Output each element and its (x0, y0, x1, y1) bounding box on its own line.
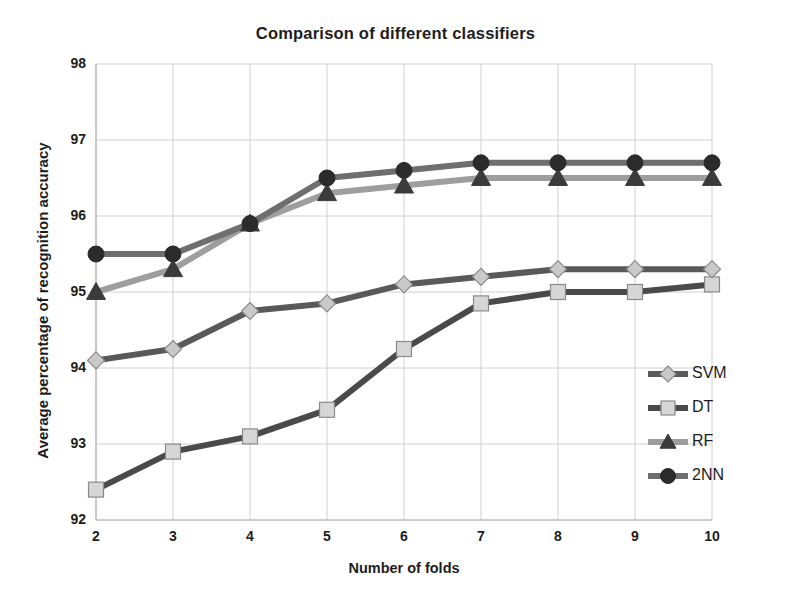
legend-marker-square-icon (646, 396, 690, 420)
legend-marker-circle-icon (646, 464, 690, 488)
x-tick-6: 6 (384, 528, 424, 544)
x-tick-8: 8 (538, 528, 578, 544)
y-tick-96: 96 (40, 207, 86, 223)
legend-item-2nn[interactable]: 2NN (646, 464, 736, 494)
chart-container: Comparison of different classifiers Aver… (0, 0, 791, 605)
x-tick-7: 7 (461, 528, 501, 544)
legend-label-svm: SVM (692, 364, 727, 382)
legend-marker-triangle-icon (646, 430, 690, 454)
x-tick-2: 2 (76, 528, 116, 544)
y-tick-92: 92 (40, 511, 86, 527)
legend-item-svm[interactable]: SVM (646, 362, 736, 392)
plot-area (0, 0, 791, 605)
x-tick-5: 5 (307, 528, 347, 544)
y-tick-93: 93 (40, 435, 86, 451)
y-tick-95: 95 (40, 283, 86, 299)
legend-label-2nn: 2NN (692, 466, 724, 484)
x-tick-3: 3 (153, 528, 193, 544)
legend-label-rf: RF (692, 432, 713, 450)
legend-marker-diamond-icon (646, 362, 690, 386)
y-tick-94: 94 (40, 359, 86, 375)
x-tick-10: 10 (692, 528, 732, 544)
y-tick-98: 98 (40, 55, 86, 71)
x-tick-9: 9 (615, 528, 655, 544)
y-tick-97: 97 (40, 131, 86, 147)
legend-label-dt: DT (692, 398, 713, 416)
legend: SVM DT RF 2NN (646, 362, 736, 498)
legend-item-rf[interactable]: RF (646, 430, 736, 460)
legend-item-dt[interactable]: DT (646, 396, 736, 426)
x-axis-label: Number of folds (96, 560, 712, 576)
x-tick-4: 4 (230, 528, 270, 544)
